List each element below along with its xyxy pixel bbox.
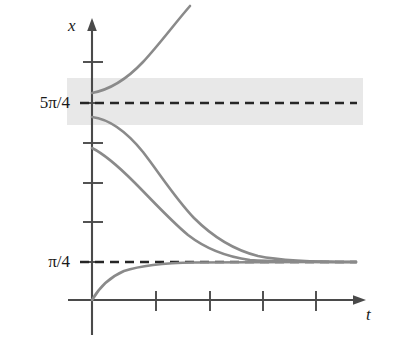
y-axis-label: x xyxy=(68,17,76,34)
vertical-axis-arrowhead xyxy=(87,18,97,31)
y-tick-label-5pi-over-4: 5π/4 xyxy=(12,94,70,111)
x-axis-label: t xyxy=(366,306,371,323)
plot-canvas xyxy=(0,0,399,343)
horizontal-axis-arrowhead xyxy=(353,295,366,305)
curve-middle-descending xyxy=(92,148,356,262)
figure-container: x t 5π/4 π/4 xyxy=(0,0,399,343)
curve-just-below-upper-equilibrium xyxy=(92,117,356,262)
y-tick-label-pi-over-4: π/4 xyxy=(12,253,70,270)
